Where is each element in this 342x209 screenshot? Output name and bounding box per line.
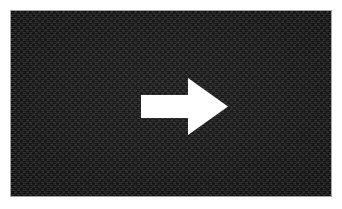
arrow-layer <box>11 11 331 196</box>
right-arrow-polygon <box>141 78 228 135</box>
dark-textured-panel <box>11 11 331 196</box>
canvas-stage <box>0 0 342 209</box>
right-arrow-icon <box>11 11 331 196</box>
